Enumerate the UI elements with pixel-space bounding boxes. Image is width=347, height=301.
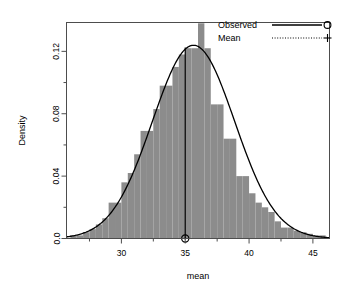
y-tick-label: 0.04: [52, 168, 62, 185]
legend-label-observed: Observed: [218, 20, 257, 30]
histogram-bar: [172, 67, 178, 239]
histogram-bar: [160, 86, 166, 239]
histogram-bar: [179, 54, 185, 238]
x-tick-label: 45: [308, 248, 318, 258]
histogram-bar: [249, 193, 255, 238]
histogram-bar: [198, 23, 204, 238]
histogram-bar: [153, 109, 159, 238]
histogram-bar: [224, 139, 230, 239]
histogram-bar: [192, 48, 198, 238]
y-tick-label: 0.0: [52, 232, 62, 244]
histogram-bar: [287, 228, 293, 239]
histogram-bar: [281, 228, 287, 239]
histogram-bar: [243, 176, 249, 238]
chart-container: 30354045 0.00.040.080.12 mean Density Ob…: [0, 0, 347, 301]
histogram-bar: [147, 131, 153, 239]
x-axis-title: mean: [187, 271, 210, 281]
x-tick-label: 35: [180, 248, 190, 258]
x-tick-label: 40: [244, 248, 254, 258]
histogram-bar: [204, 48, 210, 238]
y-axis-title: Density: [17, 115, 27, 146]
legend-label-mean: Mean: [218, 33, 241, 43]
histogram-bar: [268, 212, 274, 239]
y-tick-label: 0.12: [52, 43, 62, 60]
histogram-bar: [255, 203, 261, 239]
histogram-bar: [230, 139, 236, 239]
histogram-bar: [217, 104, 223, 238]
x-tick-label: 30: [117, 248, 127, 258]
histogram-bar: [115, 203, 121, 239]
histogram-bar: [211, 104, 217, 238]
histogram-bar: [262, 207, 268, 238]
histogram-bar: [236, 176, 242, 238]
histogram-bar: [185, 48, 191, 238]
density-histogram-plot: 30354045 0.00.040.080.12 mean Density Ob…: [0, 0, 347, 301]
histogram-bar: [166, 86, 172, 239]
histogram-bar: [275, 221, 281, 238]
y-tick-label: 0.08: [52, 105, 62, 122]
